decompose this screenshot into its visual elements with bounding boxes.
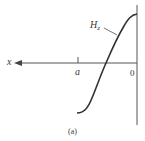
x-axis-arrow-icon [14, 60, 22, 66]
hz-leader-line [104, 28, 117, 35]
hz-curve-label: Hz [90, 20, 100, 33]
diagram-canvas [0, 0, 145, 141]
origin-label: 0 [130, 68, 135, 78]
field-profile-diagram: x a 0 Hz (a) [0, 0, 145, 141]
x-axis-label: x [7, 57, 11, 67]
tick-a-label: a [75, 67, 80, 77]
hz-label-subscript: z [97, 24, 100, 32]
figure-caption: (a) [68, 127, 77, 137]
